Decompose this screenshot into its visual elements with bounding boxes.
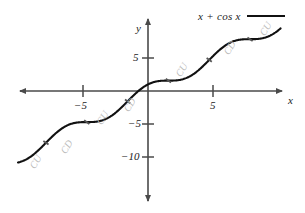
legend-line-swatch [247, 15, 285, 17]
y-tick-label-5: 5 [133, 52, 139, 63]
x-tick-label-minus5: −5 [74, 100, 87, 111]
legend: x + cos x [198, 10, 285, 22]
y-tick-label-minus10: −10 [121, 151, 139, 162]
x-axis [20, 85, 282, 97]
legend-label: x + cos x [198, 10, 241, 22]
x-axis-label: x [288, 95, 293, 106]
y-tick-label-minus5: −5 [128, 118, 141, 129]
y-axis [142, 19, 154, 201]
x-tick-label-5: 5 [210, 100, 216, 111]
graph-figure: y x −5 5 5 −5 −10 x + cos x CUCDCUCDCUCD… [0, 0, 305, 213]
curve-x-plus-cos-x [18, 28, 281, 162]
y-axis-label: y [136, 23, 141, 34]
